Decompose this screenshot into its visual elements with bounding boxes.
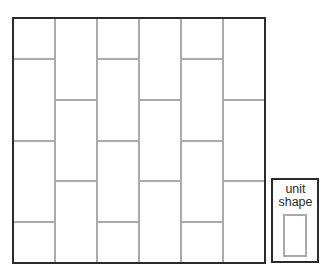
unit-shape-rectangle [284,215,306,256]
tile-grid-lines [13,18,265,263]
tiling-diagram [0,0,330,271]
unit-shape-label-line2: shape [272,196,319,209]
